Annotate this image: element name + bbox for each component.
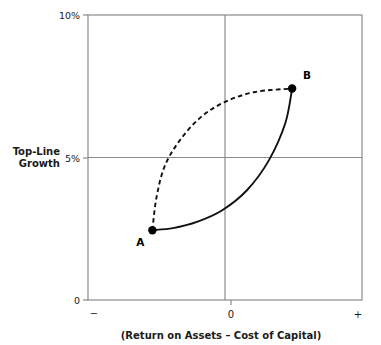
data-point-a-marker[interactable] (148, 226, 156, 234)
data-point-b-marker[interactable] (288, 84, 296, 92)
x-axis-tick-label-zero: 0 (228, 309, 234, 320)
data-point-a-label: A (136, 236, 145, 248)
x-axis-title: (Return on Assets – Cost of Capital) (121, 330, 321, 341)
quadrant-growth-chart: A B 10% 5% 0 − 0 + Top-Line Growth (Retu… (0, 0, 381, 345)
x-axis-tick-label-positive: + (354, 309, 362, 320)
y-axis-tick-label-10-percent: 10% (59, 10, 80, 21)
chart-container: A B 10% 5% 0 − 0 + Top-Line Growth (Retu… (0, 0, 381, 345)
y-axis-title-line-2: Growth (19, 158, 60, 169)
y-axis-title-line-1: Top-Line (13, 146, 61, 157)
x-axis-tick-label-negative: − (90, 308, 98, 319)
data-point-b-label: B (303, 69, 311, 81)
y-axis-tick-label-0: 0 (74, 295, 80, 306)
y-axis-tick-label-5-percent: 5% (65, 153, 80, 164)
